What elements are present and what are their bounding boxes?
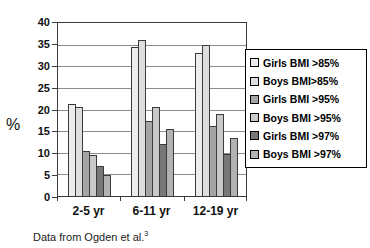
- legend-label: Boys BMI >97%: [263, 148, 341, 160]
- y-tick: [52, 175, 57, 176]
- y-tick: [52, 131, 57, 132]
- y-tick-label: 0: [18, 191, 50, 203]
- y-tick: [52, 66, 57, 67]
- y-tick: [52, 44, 57, 45]
- y-tick: [52, 22, 57, 23]
- legend-label: Boys BMI >95%: [263, 112, 341, 124]
- x-tick: [120, 197, 121, 201]
- x-tick-label: 12-19 yr: [184, 204, 248, 218]
- x-tick: [57, 197, 58, 201]
- y-tick-label: 5: [18, 169, 50, 181]
- x-tick-label: 6-11 yr: [120, 204, 184, 218]
- legend-swatch-icon: [250, 113, 259, 122]
- y-tick-label: 40: [18, 16, 50, 28]
- caption: Data from Ogden et al.3: [33, 231, 148, 243]
- y-tick: [52, 153, 57, 154]
- legend: Girls BMI >85%Boys BMI>85%Girls BMI >95%…: [245, 49, 367, 168]
- y-tick-label: 10: [18, 147, 50, 159]
- y-tick-label: 35: [18, 38, 50, 50]
- x-tick: [246, 197, 247, 201]
- legend-swatch-icon: [250, 150, 259, 159]
- y-tick-label: 20: [18, 104, 50, 116]
- legend-swatch-icon: [250, 95, 259, 104]
- legend-swatch-icon: [250, 58, 259, 67]
- bar: [166, 129, 174, 196]
- legend-item: Boys BMI >97%: [250, 147, 366, 162]
- x-tick: [184, 197, 185, 201]
- legend-item: Girls BMI >85%: [250, 55, 366, 70]
- legend-label: Girls BMI >95%: [263, 93, 339, 105]
- bar-group-6-11yr: [131, 23, 174, 196]
- legend-label: Girls BMI >85%: [263, 57, 339, 69]
- caption-text: Data from Ogden et al.: [33, 231, 144, 243]
- y-tick: [52, 110, 57, 111]
- y-tick: [52, 88, 57, 89]
- plot-area: [57, 22, 247, 197]
- bar: [103, 175, 111, 196]
- bar-group-2-5yr: [68, 23, 111, 196]
- y-tick-label: 25: [18, 82, 50, 94]
- y-tick-label: 15: [18, 125, 50, 137]
- x-tick-label: 2-5 yr: [57, 204, 121, 218]
- y-tick-label: 30: [18, 60, 50, 72]
- legend-label: Boys BMI>85%: [263, 75, 338, 87]
- legend-item: Girls BMI >97%: [250, 128, 366, 143]
- legend-swatch-icon: [250, 77, 259, 86]
- bar: [230, 138, 238, 196]
- legend-swatch-icon: [250, 131, 259, 140]
- chart-figure: % Girls BMI >85%Boys BMI>85%Girls BMI >9…: [0, 0, 370, 248]
- caption-superscript: 3: [144, 230, 148, 237]
- legend-item: Boys BMI >95%: [250, 110, 366, 125]
- legend-item: Girls BMI >95%: [250, 92, 366, 107]
- bar-group-12-19yr: [195, 23, 238, 196]
- legend-label: Girls BMI >97%: [263, 130, 339, 142]
- legend-item: Boys BMI>85%: [250, 74, 366, 89]
